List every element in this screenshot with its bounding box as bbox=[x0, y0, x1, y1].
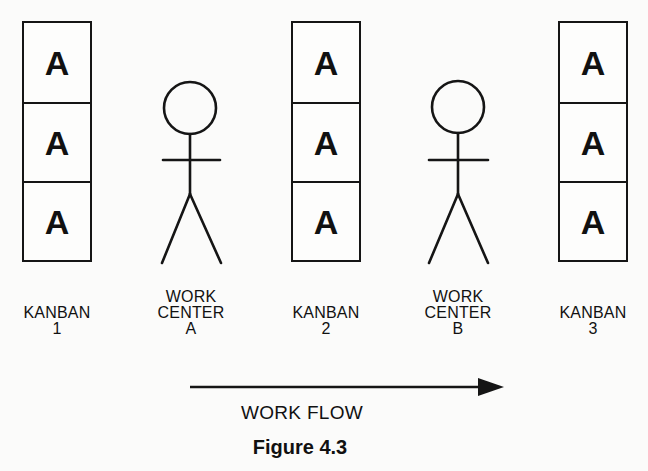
kanban-3-label: KANBAN 3 bbox=[543, 305, 643, 337]
kanban-card: A bbox=[560, 102, 626, 181]
kanban-1-stack: A A A bbox=[22, 21, 92, 262]
work-center-b-label: WORK CENTER B bbox=[408, 289, 508, 337]
kanban-1-label: KANBAN 1 bbox=[7, 305, 107, 337]
kanban-card: A bbox=[24, 102, 90, 181]
kanban-card: A bbox=[560, 23, 626, 102]
kanban-2-label: KANBAN 2 bbox=[276, 305, 376, 337]
figure-caption: Figure 4.3 bbox=[200, 436, 400, 459]
worker-a-stick-figure-icon bbox=[155, 75, 230, 270]
work-flow-label: WORK FLOW bbox=[202, 402, 402, 424]
worker-b-stick-figure-icon bbox=[422, 75, 497, 270]
kanban-card: A bbox=[560, 181, 626, 260]
kanban-card: A bbox=[24, 181, 90, 260]
kanban-card: A bbox=[293, 23, 359, 102]
work-flow-arrow-icon bbox=[186, 376, 508, 400]
kanban-2-stack: A A A bbox=[291, 21, 361, 262]
kanban-card: A bbox=[293, 181, 359, 260]
kanban-card: A bbox=[293, 102, 359, 181]
work-center-a-label: WORK CENTER A bbox=[141, 289, 241, 337]
kanban-card: A bbox=[24, 23, 90, 102]
kanban-3-stack: A A A bbox=[558, 21, 628, 262]
